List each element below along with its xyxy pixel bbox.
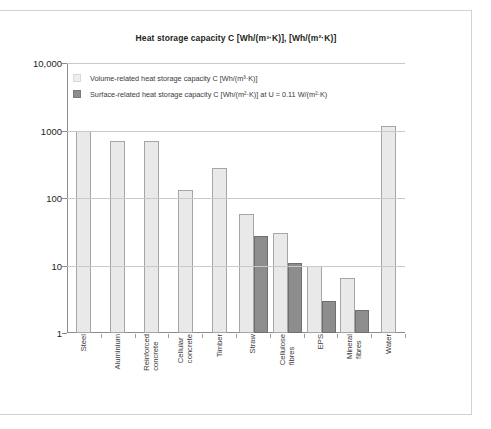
y-axis-tick-label: 10	[51, 260, 62, 271]
x-axis-category-label: Steel	[67, 334, 101, 410]
gridline-100	[67, 198, 405, 199]
x-axis-labels: SteelAluminiumReinforced concreteCellula…	[67, 334, 405, 410]
x-axis-category-label: Straw	[236, 334, 270, 410]
y-axis-tick-label: 1000	[41, 125, 62, 136]
y-tick-1000	[62, 131, 67, 132]
gridline-10000	[67, 63, 405, 64]
x-axis-category-label: Timber	[202, 334, 236, 410]
bar-surface	[288, 263, 302, 333]
x-axis-category-text: Cellulose fibres	[278, 334, 296, 365]
bar-volume	[340, 278, 355, 333]
bar-volume	[307, 266, 322, 334]
x-axis-category-label: Water	[371, 334, 405, 410]
page-border-right	[471, 10, 472, 415]
y-axis-tick-label: 10,000	[33, 58, 62, 69]
bar-volume	[144, 141, 159, 333]
bar-volume	[273, 233, 288, 333]
bar-volume	[178, 190, 193, 333]
x-axis-category-text: Straw	[248, 334, 257, 353]
x-axis-category-text: Mineral fibres	[345, 334, 363, 359]
chart-page: Heat storage capacity C [Wh/(m³·K)], [Wh…	[0, 0, 491, 429]
x-axis-category-label: Mineral fibres	[337, 334, 371, 410]
x-axis-category-text: Reinforced concrete	[142, 334, 160, 371]
x-axis-category-text: Aluminium	[113, 334, 122, 369]
x-axis-category-label: Cellular concrete	[168, 334, 202, 410]
x-axis-category-label: Aluminium	[101, 334, 135, 410]
chart-title: Heat storage capacity C [Wh/(m³·K)], [Wh…	[0, 33, 472, 43]
y-tick-10000	[62, 63, 67, 64]
gridline-1000	[67, 131, 405, 132]
page-border-top	[0, 10, 472, 11]
x-axis-category-text: Cellular concrete	[176, 334, 194, 363]
gridline-10	[67, 266, 405, 267]
x-axis-category-text: Water	[384, 334, 393, 354]
x-tick	[405, 334, 406, 338]
bar-volume	[239, 214, 254, 333]
x-axis-category-text: Timber	[215, 334, 224, 357]
bar-volume	[381, 126, 396, 333]
y-axis-tick-label: 100	[46, 193, 62, 204]
bar-volume	[110, 141, 125, 333]
y-tick-10	[62, 266, 67, 267]
y-axis-labels: 110100100010,000	[0, 63, 62, 333]
page-border-bottom	[0, 414, 472, 415]
bar-surface	[254, 236, 268, 333]
plot-area	[67, 63, 405, 333]
bar-volume	[76, 131, 91, 334]
bar-surface	[355, 310, 369, 333]
x-axis-category-label: EPS	[304, 334, 338, 410]
x-axis-category-label: Cellulose fibres	[270, 334, 304, 410]
x-axis-category-label: Reinforced concrete	[135, 334, 169, 410]
bar-surface	[322, 301, 336, 333]
y-tick-100	[62, 198, 67, 199]
bar-volume	[212, 168, 227, 333]
x-axis-category-text: EPS	[316, 334, 325, 349]
x-axis-category-text: Steel	[79, 334, 88, 351]
